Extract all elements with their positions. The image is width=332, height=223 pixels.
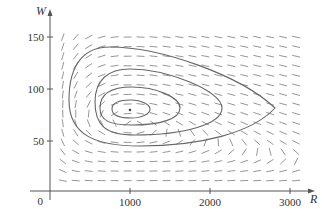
- field-segment: [85, 151, 92, 153]
- field-segment: [202, 161, 209, 162]
- field-segment: [280, 94, 287, 96]
- field-segment: [62, 62, 64, 69]
- field-segment: [150, 94, 157, 95]
- y-axis-arrow-icon: [48, 9, 53, 16]
- field-segment: [176, 151, 183, 153]
- field-segment: [230, 139, 233, 146]
- field-segment: [254, 131, 260, 134]
- field-segment: [241, 171, 248, 172]
- field-segment: [98, 151, 105, 152]
- field-segment: [241, 103, 248, 105]
- field-segment: [228, 36, 235, 37]
- field-segment: [241, 160, 248, 162]
- field-segment: [216, 131, 222, 135]
- field-segment: [267, 131, 274, 134]
- field-segment: [241, 65, 248, 67]
- field-segment: [241, 46, 248, 48]
- field-segment: [62, 91, 63, 98]
- field-segment: [150, 65, 157, 66]
- field-segment: [215, 150, 221, 154]
- field-segment: [241, 55, 248, 57]
- field-segment: [137, 132, 144, 134]
- field-segment: [293, 84, 300, 86]
- field-segment: [73, 34, 78, 39]
- field-segment: [228, 171, 235, 172]
- field-segment: [254, 103, 261, 105]
- field-segment: [202, 46, 209, 47]
- field-segment: [137, 94, 144, 95]
- field-segment: [62, 81, 63, 88]
- field-segment: [189, 36, 196, 37]
- field-segment: [293, 170, 300, 172]
- field-segment: [280, 103, 287, 105]
- field-segment: [267, 94, 274, 96]
- field-segment: [163, 151, 170, 152]
- field-segment: [176, 94, 183, 96]
- field-segment: [190, 130, 194, 136]
- field-segment: [280, 36, 287, 38]
- field-segment: [73, 150, 79, 153]
- field-segment: [189, 46, 196, 47]
- field-segment: [176, 161, 183, 162]
- field-segment: [241, 94, 248, 96]
- field-segment: [150, 84, 157, 85]
- field-segment: [72, 170, 79, 171]
- field-segment: [293, 122, 300, 124]
- field-segment: [62, 43, 64, 50]
- field-segment: [280, 55, 287, 57]
- field-segment: [189, 65, 196, 66]
- field-segment: [86, 130, 91, 135]
- field-segment: [62, 72, 64, 79]
- field-segment: [215, 122, 222, 125]
- field-segment: [62, 34, 64, 41]
- field-segment: [189, 112, 196, 115]
- field-segment: [176, 46, 183, 47]
- field-segment: [280, 180, 287, 181]
- field-segment: [257, 148, 258, 155]
- field-segment: [176, 56, 183, 57]
- field-segment: [111, 75, 118, 76]
- field-segment: [150, 103, 157, 104]
- field-segment: [215, 84, 222, 86]
- field-segment: [163, 141, 170, 144]
- field-segment: [228, 55, 235, 57]
- field-segment: [280, 75, 287, 77]
- field-segment: [60, 170, 67, 173]
- field-segment: [267, 36, 274, 38]
- field-segment: [267, 84, 274, 86]
- field-segment: [293, 94, 300, 96]
- field-segment: [61, 139, 64, 145]
- field-segment: [75, 101, 76, 108]
- field-segment: [150, 152, 157, 153]
- field-segment: [203, 130, 208, 135]
- field-segment: [178, 129, 180, 136]
- field-segment: [111, 94, 118, 96]
- field-segment: [176, 121, 182, 125]
- field-segment: [74, 53, 78, 59]
- field-segment: [176, 84, 183, 85]
- field-segment: [137, 104, 144, 105]
- field-segment: [254, 75, 261, 77]
- field-segment: [228, 103, 235, 105]
- field-segment: [215, 55, 222, 56]
- field-segment: [228, 112, 235, 114]
- field-segment: [281, 159, 286, 164]
- field-segment: [293, 103, 300, 105]
- field-segment: [98, 55, 105, 57]
- field-segment: [137, 113, 144, 114]
- field-segment: [98, 36, 105, 38]
- field-segment: [88, 110, 89, 117]
- field-segment: [202, 112, 209, 114]
- field-segment: [189, 121, 195, 124]
- field-segment: [202, 94, 209, 96]
- field-segment: [87, 101, 90, 107]
- x-tick-label-2000: 2000: [199, 196, 222, 208]
- field-segment: [163, 112, 170, 114]
- field-segment: [86, 92, 91, 98]
- field-segment: [241, 36, 248, 38]
- field-segment: [215, 36, 222, 37]
- field-segment: [61, 149, 65, 155]
- field-segment: [254, 170, 261, 171]
- field-segment: [280, 170, 287, 172]
- field-segment: [267, 140, 273, 144]
